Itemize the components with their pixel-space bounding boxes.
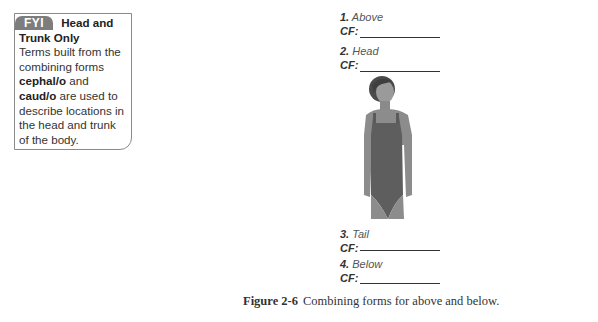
fyi-heading: FYIHead and Trunk Only [19,16,128,45]
figure-number: Figure 2-6 [243,294,298,308]
exercise-4-cf-label: CF: [340,272,358,285]
exercise-term: Tail [352,228,369,240]
fyi-term-cephalo: cephal/o [19,74,66,87]
exercise-number: 2. [340,45,349,57]
fyi-badge: FYI [15,16,53,30]
fyi-body-mid: and [66,74,89,87]
figure-caption-text: Combining forms for above and below. [303,294,499,308]
fyi-title-line1: Head and [61,16,113,29]
fyi-title-line2: Trunk Only [19,31,80,44]
exercise-number: 1. [340,11,349,23]
exercise-1-label: 1. Above [340,11,383,24]
exercise-2-label: 2. Head [340,45,379,58]
exercise-3-cf-label: CF: [340,242,358,255]
exercise-2-answer-blank[interactable] [360,71,440,72]
fyi-sidebar-box: FYIHead and Trunk Only Terms built from … [14,13,132,150]
exercise-1-cf-label: CF: [340,25,358,38]
exercise-number: 3. [340,228,349,240]
figure-caption: Figure 2-6Combining forms for above and … [243,294,499,309]
exercise-term: Above [352,11,383,23]
exercise-4-label: 4. Below [340,258,382,271]
exercise-3-label: 3. Tail [340,228,369,241]
exercise-term: Head [352,45,378,57]
exercise-term: Below [352,258,382,270]
exercise-2-cf-label: CF: [340,59,358,72]
exercise-3-answer-blank[interactable] [360,250,440,251]
exercise-4-answer-blank[interactable] [360,283,440,284]
exercise-number: 4. [340,258,349,270]
fyi-body: Terms built from the combining forms cep… [19,45,128,147]
woman-torso-illustration [360,75,418,223]
exercise-1-answer-blank[interactable] [360,37,440,38]
fyi-body-pre: Terms built from the combining forms [19,45,121,73]
fyi-term-caudo: caud/o [19,89,56,102]
